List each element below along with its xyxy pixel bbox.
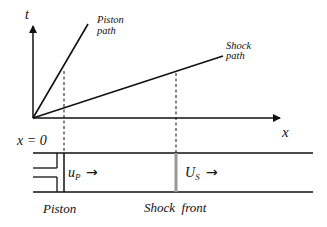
piston-velocity-arrow: → xyxy=(86,164,98,180)
shock-velocity-label: US xyxy=(185,165,200,182)
x-axis-label: x xyxy=(281,124,289,140)
t-axis-label: t xyxy=(25,7,30,22)
piston-path-label: Piston xyxy=(96,14,124,25)
piston-path-label-2: path xyxy=(96,25,116,36)
piston xyxy=(33,153,64,192)
shock-front-label: Shock front xyxy=(144,200,207,215)
shock-path-line xyxy=(33,56,223,118)
shock-path-label-2: path xyxy=(225,50,245,61)
shock-velocity-arrow: → xyxy=(206,164,218,180)
origin-label: x = 0 xyxy=(16,133,47,148)
piston-path-line xyxy=(33,24,88,118)
shock-tube-diagram: t x x = 0 Piston path Shock path uP → US… xyxy=(0,0,327,227)
piston-velocity-label: uP xyxy=(68,165,81,182)
piston-label: Piston xyxy=(42,201,76,216)
